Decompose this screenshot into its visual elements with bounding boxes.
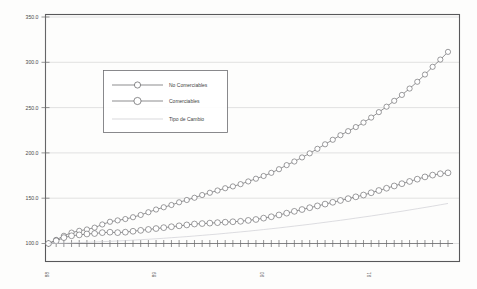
series-0-marker-47 xyxy=(407,86,412,91)
series-1-marker-36 xyxy=(322,201,328,207)
x-axis-label-3: 91 xyxy=(367,272,372,278)
series-1-marker-24 xyxy=(230,219,236,225)
legend-box xyxy=(104,71,228,133)
series-1-marker-12 xyxy=(138,227,144,233)
series-0-marker-44 xyxy=(384,104,389,109)
series-0-marker-21 xyxy=(207,190,212,195)
series-0-marker-49 xyxy=(422,72,427,77)
series-1-marker-13 xyxy=(145,227,151,233)
series-0-marker-12 xyxy=(138,212,143,217)
series-0-marker-35 xyxy=(315,146,320,151)
series-1-marker-20 xyxy=(199,221,205,227)
series-1-marker-33 xyxy=(299,207,305,213)
series-1-marker-28 xyxy=(261,215,267,221)
series-0-marker-38 xyxy=(338,133,343,138)
x-axis-label-2: 90 xyxy=(260,272,265,278)
series-0-marker-9 xyxy=(115,218,120,223)
series-1-marker-43 xyxy=(376,188,382,194)
series-0-marker-51 xyxy=(438,57,443,62)
series-1-marker-38 xyxy=(338,198,344,204)
series-0-marker-6 xyxy=(92,225,97,230)
series-1-marker-32 xyxy=(291,208,297,214)
series-0-marker-48 xyxy=(415,79,420,84)
series-0-marker-40 xyxy=(353,124,358,129)
series-1-marker-42 xyxy=(368,190,374,196)
series-1-marker-1 xyxy=(53,238,59,244)
series-0-marker-23 xyxy=(223,186,228,191)
y-axis-label-2: 250.0 xyxy=(26,105,39,111)
y-axis-label-0: 350.0 xyxy=(26,14,39,20)
series-0-marker-13 xyxy=(146,210,151,215)
series-1-marker-2 xyxy=(61,235,67,241)
y-axis-label-3: 200.0 xyxy=(26,150,39,156)
series-1-marker-51 xyxy=(437,171,443,177)
series-1-marker-46 xyxy=(399,181,405,187)
legend-swatch-marker-2 xyxy=(134,97,141,104)
series-1-marker-52 xyxy=(445,170,451,176)
series-0-marker-29 xyxy=(269,170,274,175)
series-0-marker-34 xyxy=(307,151,312,156)
series-1-marker-7 xyxy=(99,230,105,236)
series-1-marker-37 xyxy=(330,199,336,205)
series-0-marker-31 xyxy=(284,163,289,168)
series-1-marker-48 xyxy=(414,176,420,182)
y-axis-label-4: 150.0 xyxy=(26,195,39,201)
series-1-marker-16 xyxy=(169,224,175,230)
chart-legend: No Comerciables Comerciables Tipo de Cam… xyxy=(104,71,228,133)
series-1-marker-22 xyxy=(215,220,221,226)
series-0-marker-8 xyxy=(107,219,112,224)
series-0-marker-20 xyxy=(200,192,205,197)
series-0-marker-46 xyxy=(399,92,404,97)
series-1-marker-14 xyxy=(153,226,159,232)
series-0-marker-37 xyxy=(330,137,335,142)
series-0-marker-45 xyxy=(392,98,397,103)
series-0-marker-41 xyxy=(361,120,366,125)
series-0-marker-50 xyxy=(430,64,435,69)
series-0-marker-43 xyxy=(376,110,381,115)
series-1-marker-34 xyxy=(307,205,313,211)
series-1-marker-27 xyxy=(253,217,259,223)
series-1-marker-6 xyxy=(92,231,98,237)
series-1-marker-5 xyxy=(84,231,90,237)
series-0-marker-26 xyxy=(246,179,251,184)
x-axis-label-1: 89 xyxy=(152,272,157,278)
series-1-marker-50 xyxy=(430,172,436,178)
series-0-marker-7 xyxy=(100,222,105,227)
series-0-marker-42 xyxy=(369,115,374,120)
series-0-marker-10 xyxy=(123,216,128,221)
series-0-marker-32 xyxy=(292,159,297,164)
series-1-marker-23 xyxy=(222,219,228,225)
y-axis-label-5: 100.0 xyxy=(26,240,39,246)
legend-label-1: No Comerciables xyxy=(169,82,208,88)
series-1-marker-30 xyxy=(276,212,282,218)
series-1-marker-47 xyxy=(407,179,413,185)
series-0-marker-27 xyxy=(253,176,258,181)
series-0-marker-39 xyxy=(346,129,351,134)
series-1-marker-21 xyxy=(207,220,213,226)
series-1-marker-40 xyxy=(353,194,359,200)
series-1-marker-3 xyxy=(69,233,75,239)
series-1-marker-19 xyxy=(192,221,198,227)
series-1-marker-9 xyxy=(115,230,121,236)
chart-container: 350.0300.0250.0200.0150.0100.0 88899091 … xyxy=(0,0,477,289)
series-1-marker-8 xyxy=(107,229,113,235)
series-1-marker-25 xyxy=(238,218,244,224)
series-0-marker-52 xyxy=(445,49,450,54)
series-1-marker-17 xyxy=(176,223,182,229)
series-1-marker-4 xyxy=(76,232,82,238)
series-0-marker-19 xyxy=(192,195,197,200)
series-1-marker-41 xyxy=(361,192,367,198)
x-axis-label-0: 88 xyxy=(45,272,50,278)
series-0-marker-33 xyxy=(299,155,304,160)
series-1-marker-39 xyxy=(345,196,351,202)
series-0-marker-14 xyxy=(153,207,158,212)
series-1-marker-35 xyxy=(314,203,320,209)
series-1-marker-18 xyxy=(184,222,190,228)
series-1-marker-44 xyxy=(384,185,390,191)
legend-swatch-marker-1 xyxy=(134,82,140,88)
series-0-marker-17 xyxy=(177,200,182,205)
series-1-marker-26 xyxy=(245,218,251,224)
series-0-marker-11 xyxy=(130,215,135,220)
series-1-marker-15 xyxy=(161,225,167,231)
series-1-marker-49 xyxy=(422,174,428,180)
